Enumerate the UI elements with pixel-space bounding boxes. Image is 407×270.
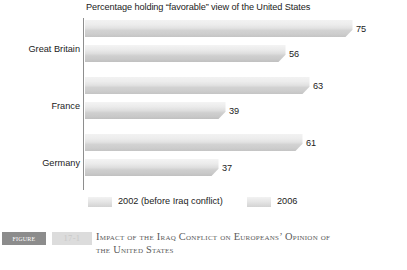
figure-caption-line1: Impact of the Iraq Conflict on Europeans… — [96, 231, 330, 242]
bar-value-great-britain-2002: 75 — [356, 24, 366, 34]
bar-france-2002 — [85, 77, 310, 94]
legend-label-2002: 2002 (before Iraq conflict) — [118, 196, 223, 206]
bar-france-2006 — [85, 102, 226, 119]
figure-page: Percentage holding “favorable” view of t… — [0, 0, 407, 270]
bar-value-france-2002: 63 — [313, 81, 323, 91]
figure-number-label: 17-1 — [52, 233, 92, 243]
bar-germany-2002 — [85, 134, 303, 151]
chart-title: Percentage holding “favorable” view of t… — [86, 2, 310, 12]
y-axis-line — [83, 18, 84, 190]
bar-value-germany-2002: 61 — [306, 138, 316, 148]
legend-label-2006: 2006 — [277, 196, 297, 206]
figure-caption-line2: the United States — [96, 244, 174, 255]
bar-great-britain-2002 — [85, 20, 353, 37]
legend-swatch-2002 — [88, 197, 112, 207]
chart-legend: 2002 (before Iraq conflict) 2006 — [0, 196, 407, 210]
category-label-france: France — [4, 101, 80, 111]
figure-caption: Impact of the Iraq Conflict on Europeans… — [96, 231, 396, 256]
figure-tag-label: figure — [2, 233, 46, 243]
bar-value-great-britain-2006: 56 — [289, 49, 299, 59]
figure-caption-strip: figure 17-1 Impact of the Iraq Conflict … — [0, 232, 407, 268]
chart-plot-area: Great Britain 75 56 France 63 39 Germany… — [0, 16, 407, 190]
figure-number-box: 17-1 — [52, 232, 92, 245]
category-label-germany: Germany — [4, 158, 80, 168]
bar-germany-2006 — [85, 159, 219, 176]
legend-swatch-2006 — [247, 197, 271, 207]
category-label-great-britain: Great Britain — [4, 44, 80, 54]
bar-great-britain-2006 — [85, 45, 286, 62]
figure-tag-box: figure — [2, 232, 46, 245]
bar-value-france-2006: 39 — [229, 106, 239, 116]
bar-value-germany-2006: 37 — [222, 163, 232, 173]
